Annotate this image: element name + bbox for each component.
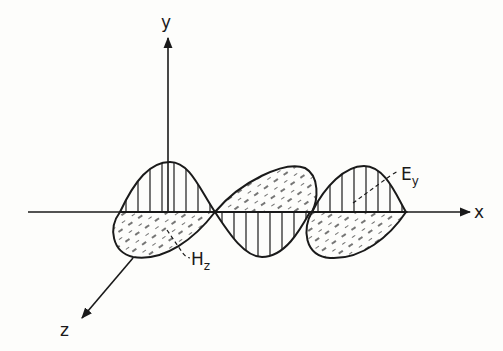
ey-subscript: y [412,174,419,188]
em-wave-diagram: y x z Ey Hz [0,0,503,351]
diagram-canvas [0,0,503,351]
hz-symbol: H [191,249,204,269]
hz-subscript: z [204,259,210,273]
z-axis [82,258,133,318]
y-axis-label: y [161,14,171,31]
hz-label: Hz [191,251,210,268]
x-axis-label: x [474,204,484,221]
ey-symbol: E [401,164,412,184]
z-axis-label: z [60,322,69,339]
ey-label: Ey [401,166,419,183]
